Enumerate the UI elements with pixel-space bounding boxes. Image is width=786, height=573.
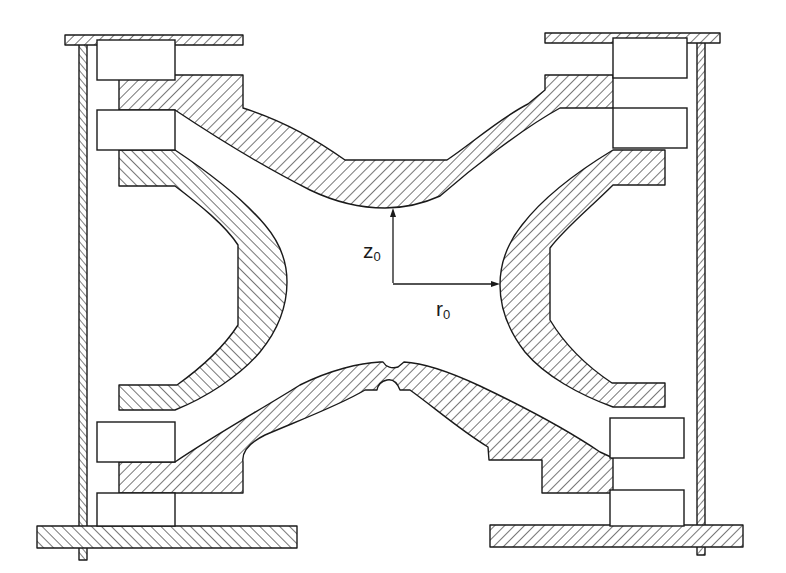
ring-electrode-left: [119, 150, 287, 410]
insulator-block: [613, 38, 687, 78]
insulator-block: [97, 493, 175, 526]
insulator-block: [610, 418, 684, 458]
z0-subscript: 0: [374, 249, 381, 264]
insulator-block: [97, 110, 175, 150]
z0-symbol: z: [363, 239, 374, 262]
right-support-wall: [697, 38, 705, 555]
z0-dimension-arrow: [390, 208, 396, 283]
ring-electrode-right: [500, 150, 665, 407]
bottom-right-plate: [490, 525, 743, 547]
r0-symbol: r: [436, 297, 443, 320]
insulator-block: [97, 422, 175, 462]
left-support-wall: [79, 40, 87, 560]
ion-trap-diagram: z0 r0: [0, 0, 786, 573]
insulator-block: [97, 40, 175, 80]
bottom-left-plate: [37, 526, 297, 548]
z0-label: z0: [363, 240, 381, 263]
ion-trap-drawing: [0, 0, 786, 573]
insulator-block: [610, 490, 684, 526]
r0-subscript: 0: [443, 307, 450, 322]
r0-label: r0: [436, 298, 450, 321]
r0-dimension-arrow: [393, 281, 500, 287]
insulator-block: [613, 108, 687, 148]
